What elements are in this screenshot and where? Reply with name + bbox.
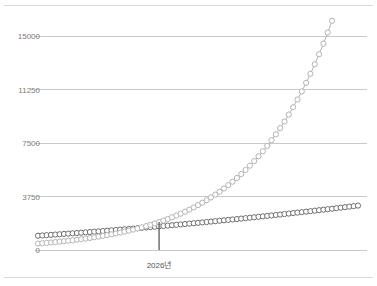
y-tick-label: 7500: [22, 139, 40, 148]
gridlines-group: [35, 36, 367, 250]
chart-container: 1500011250750037500 2026년: [0, 0, 377, 286]
series-marker: [278, 126, 283, 131]
y-tick-label: 0: [36, 246, 41, 255]
series-marker: [316, 52, 321, 57]
series-layer: [35, 18, 360, 246]
series-marker: [269, 138, 274, 143]
series-marker: [282, 119, 287, 124]
y-tick-label: 11250: [18, 86, 40, 95]
y-tick-label: 3750: [22, 193, 40, 202]
series-marker: [260, 149, 265, 154]
series-marker: [304, 80, 309, 85]
series-marker: [295, 97, 300, 102]
series-marker: [265, 143, 270, 148]
series-marker: [247, 163, 252, 168]
y-axis-tick-labels: 1500011250750037500: [18, 32, 41, 255]
series-marker: [243, 167, 248, 172]
series-marker: [329, 18, 334, 23]
series-marker: [230, 179, 235, 184]
line-chart-plot: 1500011250750037500 2026년: [0, 0, 377, 286]
series-series-linear: [35, 203, 360, 238]
series-marker: [299, 89, 304, 94]
series-marker: [321, 41, 326, 46]
series-marker: [239, 171, 244, 176]
y-tick-label: 15000: [18, 32, 41, 41]
series-marker: [234, 175, 239, 180]
series-marker: [252, 159, 257, 164]
series-marker: [325, 30, 330, 35]
series-marker: [286, 112, 291, 117]
series-marker: [273, 132, 278, 137]
x-axis-tick-labels: 2026년: [147, 260, 172, 270]
series-marker: [355, 203, 360, 208]
series-marker: [308, 71, 313, 76]
series-marker: [256, 154, 261, 159]
x-tick-label: 2026년: [147, 260, 172, 270]
series-marker: [312, 62, 317, 67]
series-marker: [291, 105, 296, 110]
